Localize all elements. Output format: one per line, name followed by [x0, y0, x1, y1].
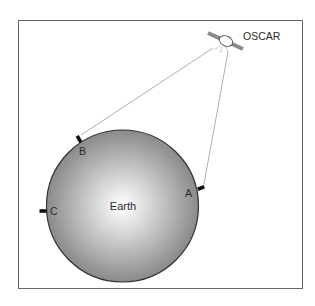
satellite-label: OSCAR [243, 30, 281, 42]
station-label-c: C [50, 205, 58, 217]
station-label-a: A [185, 187, 192, 199]
oscar-diagram: OSCAR Earth A B C [0, 0, 315, 306]
station-label-b: B [79, 145, 86, 157]
station-marker-c [40, 209, 47, 213]
earth-label: Earth [110, 200, 136, 212]
